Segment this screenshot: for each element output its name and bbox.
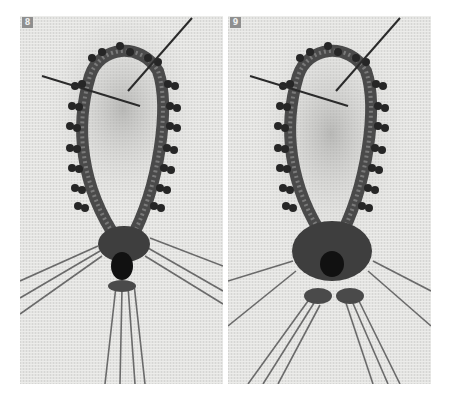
step-9-photo: 9 xyxy=(228,16,431,384)
macrame-loop-illustration xyxy=(20,16,223,384)
macrame-loop-illustration xyxy=(228,16,431,384)
step-number-badge: 8 xyxy=(22,17,33,28)
step-8-photo: 8 xyxy=(20,16,223,384)
step-number-badge: 9 xyxy=(230,17,241,28)
